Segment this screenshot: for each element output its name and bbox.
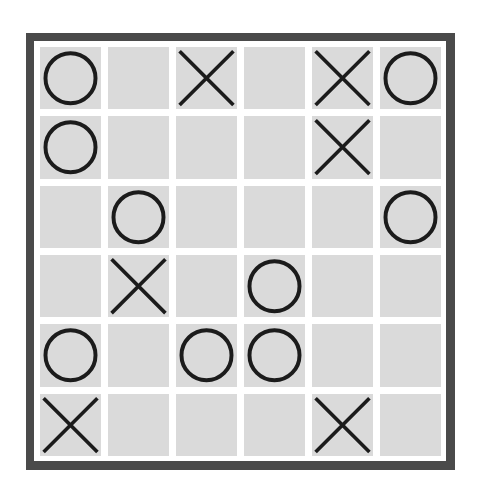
grid-cell[interactable] (380, 47, 441, 109)
cross-icon (40, 394, 101, 456)
grid-cell[interactable] (40, 116, 101, 178)
grid-cell[interactable] (244, 186, 305, 248)
circle-icon (108, 186, 169, 248)
cross-icon (176, 47, 237, 109)
grid-cell[interactable] (380, 116, 441, 178)
grid-cell[interactable] (40, 255, 101, 317)
grid-cell[interactable] (40, 324, 101, 386)
grid-cell[interactable] (176, 394, 237, 456)
circle-icon (380, 186, 441, 248)
grid-cell[interactable] (108, 255, 169, 317)
cross-icon (108, 255, 169, 317)
grid-cell[interactable] (244, 255, 305, 317)
grid-cell[interactable] (108, 186, 169, 248)
grid-cell[interactable] (312, 116, 373, 178)
circle-icon (40, 116, 101, 178)
circle-icon (40, 324, 101, 386)
grid-cell[interactable] (380, 255, 441, 317)
grid-cell[interactable] (40, 186, 101, 248)
grid-cell[interactable] (40, 394, 101, 456)
grid-cell[interactable] (244, 47, 305, 109)
circle-icon (244, 324, 305, 386)
grid-cell[interactable] (380, 394, 441, 456)
grid-cell[interactable] (312, 186, 373, 248)
grid-cell[interactable] (108, 324, 169, 386)
grid-cell[interactable] (176, 116, 237, 178)
board-frame (26, 33, 455, 470)
grid-cell[interactable] (244, 324, 305, 386)
cross-icon (312, 116, 373, 178)
grid-cell[interactable] (312, 394, 373, 456)
tic-tac-toe-grid (34, 41, 446, 461)
circle-icon (244, 255, 305, 317)
grid-cell[interactable] (108, 394, 169, 456)
grid-cell[interactable] (244, 116, 305, 178)
cross-icon (312, 47, 373, 109)
grid-cell[interactable] (176, 47, 237, 109)
circle-icon (176, 324, 237, 386)
grid-cell[interactable] (312, 47, 373, 109)
grid-cell[interactable] (40, 47, 101, 109)
grid-cell[interactable] (176, 324, 237, 386)
grid-cell[interactable] (108, 47, 169, 109)
grid-cell[interactable] (176, 255, 237, 317)
grid-cell[interactable] (380, 324, 441, 386)
grid-cell[interactable] (380, 186, 441, 248)
grid-cell[interactable] (312, 324, 373, 386)
grid-cell[interactable] (108, 116, 169, 178)
cross-icon (312, 394, 373, 456)
circle-icon (40, 47, 101, 109)
grid-cell[interactable] (176, 186, 237, 248)
circle-icon (380, 47, 441, 109)
grid-cell[interactable] (312, 255, 373, 317)
grid-cell[interactable] (244, 394, 305, 456)
